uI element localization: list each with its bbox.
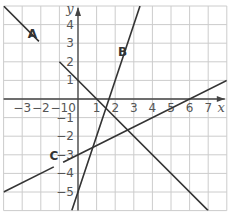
x-tick-label: −3 (13, 101, 31, 115)
line-label-a: A (28, 27, 38, 41)
line-label-c: C (49, 149, 58, 163)
y-tick-label: −5 (56, 185, 74, 199)
x-tick-label: 6 (186, 101, 194, 115)
x-tick-label: 7 (204, 101, 212, 115)
y-tick-label: −3 (56, 148, 74, 162)
line-c (63, 80, 227, 162)
line-label-b: B (118, 45, 127, 59)
y-axis-arrow-icon (75, 7, 81, 16)
x-tick-label: 2 (111, 101, 119, 115)
line-c (4, 167, 54, 192)
coordinate-graph: xy−3−2−1012345674321−1−2−3−4−5 ABC (0, 0, 228, 215)
y-tick-label: −1 (56, 111, 74, 125)
x-tick-label: 4 (149, 101, 157, 115)
tick-labels: xy−3−2−1012345674321−1−2−3−4−5 (13, 1, 225, 199)
x-tick-label: 1 (93, 101, 101, 115)
y-tick-label: −2 (56, 129, 74, 143)
x-tick-label: −2 (32, 101, 50, 115)
x-tick-label: 3 (130, 101, 138, 115)
x-axis-label: x (218, 100, 226, 115)
y-tick-label: −4 (56, 166, 74, 180)
y-tick-label: 2 (66, 55, 74, 69)
y-tick-label: 3 (66, 36, 74, 50)
y-axis-label: y (65, 1, 74, 16)
y-tick-label: 4 (66, 18, 74, 32)
